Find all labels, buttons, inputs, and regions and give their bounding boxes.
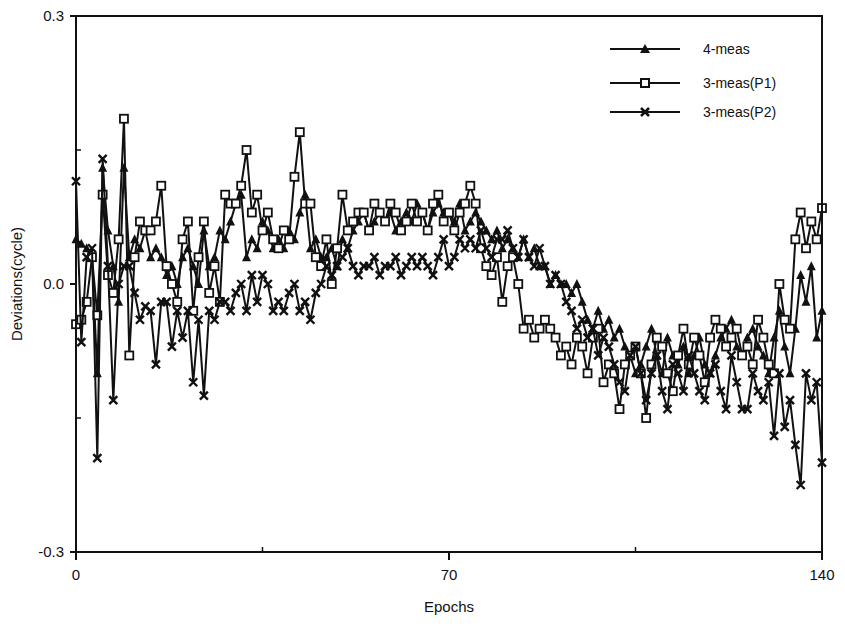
y-axis-title: Deviations(cycle) [8, 227, 25, 341]
axis-ticks: 0.30.0-0.3070140 [38, 7, 834, 583]
square-marker-icon [381, 217, 389, 225]
triangle-marker-icon [578, 297, 587, 306]
triangle-marker-icon [295, 208, 304, 217]
square-marker-icon [157, 182, 165, 190]
square-marker-icon [344, 226, 352, 234]
square-marker-icon [488, 271, 496, 279]
square-marker-icon [717, 325, 725, 333]
legend-label: 4-meas [703, 41, 750, 57]
square-marker-icon [264, 209, 272, 217]
square-marker-icon [568, 360, 576, 368]
square-marker-icon [754, 316, 762, 324]
triangle-marker-icon [727, 315, 736, 324]
square-marker-icon [791, 235, 799, 243]
square-marker-icon [653, 334, 661, 342]
square-marker-icon [573, 334, 581, 342]
square-marker-icon [232, 200, 240, 208]
x-marker-icon [274, 298, 282, 306]
square-marker-icon [179, 235, 187, 243]
square-marker-icon [536, 325, 544, 333]
square-marker-icon [131, 253, 139, 261]
line-chart: 0.30.0-0.3070140 Epochs Deviations(cycle… [0, 0, 845, 627]
square-marker-icon [722, 343, 730, 351]
square-marker-icon [200, 217, 208, 225]
square-marker-icon [584, 369, 592, 377]
square-marker-icon [658, 343, 666, 351]
triangle-marker-icon [604, 315, 613, 324]
square-marker-icon [195, 253, 203, 261]
square-marker-icon [562, 343, 570, 351]
triangle-marker-icon [492, 225, 501, 234]
square-marker-icon [392, 209, 400, 217]
square-marker-icon [376, 209, 384, 217]
square-marker-icon [530, 334, 538, 342]
square-marker-icon [641, 79, 649, 87]
triangle-marker-icon [796, 270, 805, 279]
series-4-meas [72, 163, 827, 377]
x-tick-label: 140 [809, 566, 834, 583]
square-marker-icon [690, 334, 698, 342]
square-marker-icon [557, 351, 565, 359]
square-marker-icon [813, 235, 821, 243]
square-marker-icon [781, 316, 789, 324]
x-marker-icon [461, 244, 469, 252]
x-marker-icon [402, 262, 410, 270]
square-marker-icon [274, 244, 282, 252]
square-marker-icon [498, 298, 506, 306]
x-tick-label: 70 [441, 566, 458, 583]
square-marker-icon [184, 217, 192, 225]
x-marker-icon [354, 271, 362, 279]
square-marker-icon [243, 146, 251, 154]
triangle-marker-icon [226, 216, 235, 225]
square-marker-icon [386, 200, 394, 208]
square-marker-icon [759, 334, 767, 342]
square-marker-icon [120, 115, 128, 123]
square-marker-icon [445, 209, 453, 217]
square-marker-icon [365, 226, 373, 234]
legend-item-4-meas: 4-meas [610, 41, 750, 57]
square-marker-icon [173, 298, 181, 306]
square-marker-icon [706, 334, 714, 342]
square-marker-icon [322, 235, 330, 243]
square-marker-icon [147, 226, 155, 234]
square-marker-icon [738, 351, 746, 359]
x-axis-title: Epochs [424, 598, 474, 615]
square-marker-icon [546, 325, 554, 333]
square-marker-icon [743, 343, 751, 351]
square-marker-icon [504, 262, 512, 270]
square-marker-icon [727, 334, 735, 342]
triangle-marker-icon [780, 342, 789, 351]
x-tick-label: 0 [72, 566, 80, 583]
square-marker-icon [290, 173, 298, 181]
x-marker-icon [408, 253, 416, 261]
square-marker-icon [674, 351, 682, 359]
square-marker-icon [259, 226, 267, 234]
square-marker-icon [360, 209, 368, 217]
square-marker-icon [370, 200, 378, 208]
y-tick-label: -0.3 [38, 543, 64, 560]
triangle-marker-icon [802, 297, 811, 306]
square-marker-icon [663, 369, 671, 377]
x-marker-icon [466, 235, 474, 243]
square-marker-icon [541, 316, 549, 324]
legend: 4-meas 3-meas(P1) 3-meas(P2) [610, 41, 776, 120]
square-marker-icon [482, 262, 490, 270]
triangle-marker-icon [242, 252, 251, 261]
legend-item-3-meas-p2: 3-meas(P2) [610, 104, 776, 120]
square-marker-icon [413, 217, 421, 225]
square-marker-icon [807, 217, 815, 225]
square-marker-icon [733, 325, 741, 333]
triangle-marker-icon [663, 333, 672, 342]
square-marker-icon [168, 280, 176, 288]
square-marker-icon [333, 244, 341, 252]
square-marker-icon [306, 200, 314, 208]
triangle-marker-icon [210, 252, 219, 261]
square-marker-icon [466, 182, 474, 190]
square-marker-icon [802, 244, 810, 252]
square-marker-icon [797, 209, 805, 217]
square-marker-icon [578, 343, 586, 351]
square-marker-icon [786, 325, 794, 333]
square-marker-icon [679, 325, 687, 333]
square-marker-icon [312, 253, 320, 261]
square-marker-icon [695, 351, 703, 359]
